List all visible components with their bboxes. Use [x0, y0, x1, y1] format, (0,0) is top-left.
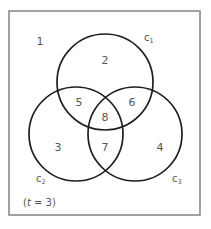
region-7-label: 7	[102, 141, 109, 154]
region-1-label: 1	[37, 35, 44, 48]
parameter-note: (t = 3)	[23, 197, 56, 208]
set-label-c1-subscript: 1	[150, 37, 154, 45]
region-5-label: 5	[76, 96, 83, 109]
region-2-label: 2	[102, 54, 109, 67]
region-4-label: 4	[157, 141, 164, 154]
region-8-label: 8	[102, 111, 109, 124]
venn-diagram: 1 2 3 4 5 6 7 8 c1 c2 c3 (t = 3)	[0, 0, 211, 229]
note-value: = 3)	[31, 197, 56, 208]
region-6-label: 6	[129, 96, 136, 109]
set-label-c2-subscript: 2	[42, 178, 46, 186]
region-3-label: 3	[55, 141, 62, 154]
set-label-c3-subscript: 3	[178, 178, 182, 186]
